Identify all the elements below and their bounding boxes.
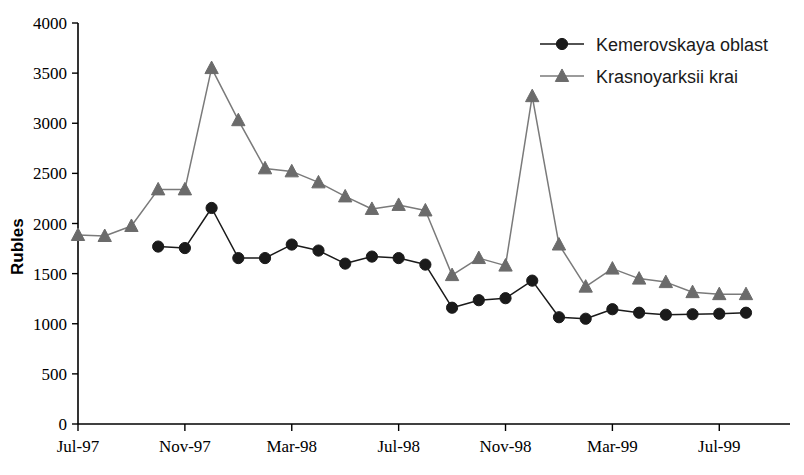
data-point-marker [632, 272, 645, 284]
data-point-marker [445, 268, 458, 280]
data-point-marker [607, 304, 618, 315]
x-tick-label: Mar-98 [266, 437, 317, 456]
data-point-marker [258, 161, 271, 173]
y-tick-label: 1500 [33, 265, 67, 284]
y-tick-label: 3000 [33, 114, 67, 133]
data-point-marker [472, 251, 485, 263]
data-point-marker [312, 175, 325, 187]
x-tick-label: Jul-97 [57, 437, 100, 456]
data-point-marker [179, 242, 190, 253]
legend-label: Kemerovskaya oblast [596, 35, 768, 55]
data-point-marker [553, 312, 564, 323]
data-point-marker [579, 280, 592, 292]
data-point-marker [125, 219, 138, 231]
data-point-marker [286, 239, 297, 250]
legend: Kemerovskaya oblastKrasnoyarksii krai [540, 35, 768, 87]
data-point-marker [739, 287, 752, 299]
data-point-marker [153, 241, 164, 252]
y-axis-title: Rubles [8, 218, 28, 275]
y-tick-label: 3500 [33, 64, 67, 83]
data-point-marker [232, 113, 245, 125]
data-point-marker [473, 295, 484, 306]
data-point-marker [420, 259, 431, 270]
y-tick-label: 500 [42, 365, 68, 384]
data-point-marker [313, 245, 324, 256]
data-point-marker [205, 61, 218, 73]
data-point-marker [580, 313, 591, 324]
data-point-marker [233, 252, 244, 263]
series-1 [153, 202, 752, 324]
x-tick-label: Jul-99 [698, 437, 741, 456]
data-point-marker [714, 308, 725, 319]
data-point-marker [339, 189, 352, 201]
x-tick-group: Jul-97Nov-97Mar-98Jul-98Nov-98Mar-99Jul-… [57, 424, 741, 456]
chart-root: Rubles 05001000150020002500300035004000J… [0, 0, 804, 475]
x-tick-label: Nov-97 [159, 437, 211, 456]
series-line [78, 68, 746, 294]
y-tick-label: 0 [59, 415, 68, 434]
data-point-marker [606, 262, 619, 274]
data-point-marker [393, 252, 404, 263]
data-point-marker [527, 275, 538, 286]
data-point-marker [526, 89, 539, 101]
y-tick-label: 2000 [33, 215, 67, 234]
data-point-marker [366, 251, 377, 262]
x-tick-label: Jul-98 [377, 437, 420, 456]
series-2 [71, 61, 752, 300]
data-point-marker [687, 309, 698, 320]
y-tick-group: 05001000150020002500300035004000 [33, 14, 78, 434]
data-point-marker [552, 238, 565, 250]
data-point-marker [740, 307, 751, 318]
legend-label: Krasnoyarksii krai [596, 67, 738, 87]
legend-marker-circle-icon [556, 38, 567, 49]
data-point-marker [340, 258, 351, 269]
data-point-marker [446, 302, 457, 313]
data-point-marker [151, 182, 164, 194]
data-point-marker [71, 228, 84, 240]
data-point-marker [634, 307, 645, 318]
x-tick-label: Mar-99 [587, 437, 638, 456]
y-tick-label: 4000 [33, 14, 67, 33]
data-point-marker [686, 285, 699, 297]
data-point-marker [500, 293, 511, 304]
line-chart: 05001000150020002500300035004000Jul-97No… [0, 0, 804, 475]
data-point-marker [259, 252, 270, 263]
x-tick-label: Nov-98 [480, 437, 532, 456]
data-point-marker [178, 182, 191, 194]
y-tick-label: 1000 [33, 315, 67, 334]
data-point-marker [660, 309, 671, 320]
data-point-marker [206, 202, 217, 213]
y-tick-label: 2500 [33, 164, 67, 183]
legend-item-2: Krasnoyarksii krai [540, 67, 738, 87]
data-point-marker [392, 198, 405, 210]
legend-item-1: Kemerovskaya oblast [540, 35, 768, 55]
